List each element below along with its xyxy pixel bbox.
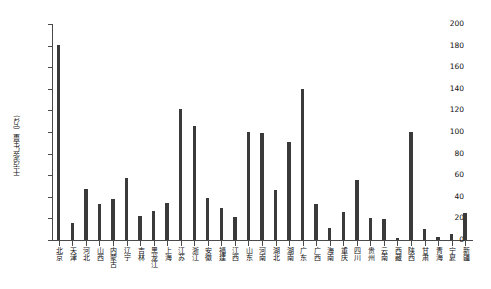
x-tick-slot <box>106 241 120 246</box>
x-tick-mark <box>59 241 60 246</box>
bar-slot <box>255 24 269 240</box>
x-label-slot: 浙江 <box>187 247 201 289</box>
bar-slot <box>336 24 350 240</box>
x-tick-slot <box>79 241 93 246</box>
x-tick-mark <box>140 241 141 246</box>
bar-series <box>52 24 472 240</box>
x-tick-label: 青海 <box>435 247 442 261</box>
bar-slot <box>160 24 174 240</box>
bar <box>152 211 155 240</box>
x-tick-label: 浙江 <box>191 247 198 261</box>
x-tick-slot <box>201 241 215 246</box>
bar <box>355 180 358 240</box>
x-tick-mark <box>248 241 249 246</box>
bar <box>165 203 168 240</box>
bar-slot <box>431 24 445 240</box>
x-tick-label: 河北 <box>82 247 89 261</box>
x-label-slot: 吉林 <box>133 247 147 289</box>
x-label-slot: 四川 <box>350 247 364 289</box>
x-tick-mark <box>438 241 439 246</box>
x-tick-slot <box>431 241 445 246</box>
x-tick-label: 重庆 <box>340 247 347 261</box>
x-tick-slot <box>120 241 134 246</box>
x-tick-mark <box>235 241 236 246</box>
x-tick-label: 贵州 <box>367 247 374 261</box>
bar <box>206 198 209 240</box>
x-tick-slot <box>336 241 350 246</box>
bar-slot <box>404 24 418 240</box>
x-tick-slot <box>323 241 337 246</box>
bar <box>396 238 399 240</box>
x-tick-label: 广西 <box>313 247 320 261</box>
bar-slot <box>445 24 459 240</box>
x-tick-mark <box>452 241 453 246</box>
x-tick-mark <box>370 241 371 246</box>
x-tick-label: 福建 <box>218 247 225 261</box>
bar-chart: 干污泥产生量（万t) 020406080100120140160180200 北… <box>0 0 491 289</box>
x-tick-mark <box>303 241 304 246</box>
bar <box>71 223 74 240</box>
bar-slot <box>93 24 107 240</box>
bar <box>287 142 290 240</box>
bar <box>342 212 345 240</box>
x-tick-label: 吉林 <box>137 247 144 261</box>
bar <box>125 178 128 240</box>
bar-slot <box>296 24 310 240</box>
x-tick-label: 江西 <box>231 247 238 261</box>
x-tick-slot <box>458 241 472 246</box>
x-tick-slot <box>391 241 405 246</box>
bar <box>220 208 223 240</box>
bar-slot <box>228 24 242 240</box>
x-tick-label: 海南 <box>326 247 333 261</box>
x-label-slot: 陕西 <box>404 247 418 289</box>
x-label-slot: 安徽 <box>201 247 215 289</box>
x-tick-mark <box>113 241 114 246</box>
x-tick-slot <box>242 241 256 246</box>
bar <box>84 189 87 240</box>
x-label-slot: 福建 <box>215 247 229 289</box>
bar-slot <box>215 24 229 240</box>
bar-slot <box>323 24 337 240</box>
x-tick-mark <box>289 241 290 246</box>
bar-slot <box>133 24 147 240</box>
x-tick-mark <box>316 241 317 246</box>
x-tick-mark <box>208 241 209 246</box>
x-label-slot: 海南 <box>323 247 337 289</box>
bar-slot <box>377 24 391 240</box>
bar-slot <box>174 24 188 240</box>
x-tick-slot <box>296 241 310 246</box>
x-tick-label: 北京 <box>55 247 62 261</box>
x-tick-slot <box>66 241 80 246</box>
x-tick-slot <box>350 241 364 246</box>
x-tick-mark <box>194 241 195 246</box>
bar-slot <box>391 24 405 240</box>
x-tick-slot <box>255 241 269 246</box>
x-axis-ticks <box>52 241 472 246</box>
x-tick-label: 四川 <box>353 247 360 261</box>
bar-slot <box>147 24 161 240</box>
x-tick-mark <box>357 241 358 246</box>
x-tick-mark <box>99 241 100 246</box>
x-tick-label: 内蒙古 <box>109 247 116 268</box>
x-tick-label: 天津 <box>69 247 76 261</box>
bar <box>328 228 331 240</box>
bar <box>450 234 453 240</box>
x-tick-slot <box>377 241 391 246</box>
x-label-slot: 宁夏 <box>445 247 459 289</box>
x-tick-slot <box>133 241 147 246</box>
bar <box>314 204 317 240</box>
x-tick-label: 安徽 <box>204 247 211 261</box>
x-tick-slot <box>228 241 242 246</box>
bar-slot <box>269 24 283 240</box>
bar <box>260 133 263 240</box>
x-tick-mark <box>330 241 331 246</box>
x-tick-slot <box>52 241 66 246</box>
x-tick-slot <box>445 241 459 246</box>
bar <box>463 213 466 240</box>
x-tick-mark <box>411 241 412 246</box>
plot-area: 020406080100120140160180200 <box>52 24 472 240</box>
bar-slot <box>282 24 296 240</box>
bar-slot <box>350 24 364 240</box>
x-label-slot: 广西 <box>309 247 323 289</box>
bar <box>98 204 101 240</box>
